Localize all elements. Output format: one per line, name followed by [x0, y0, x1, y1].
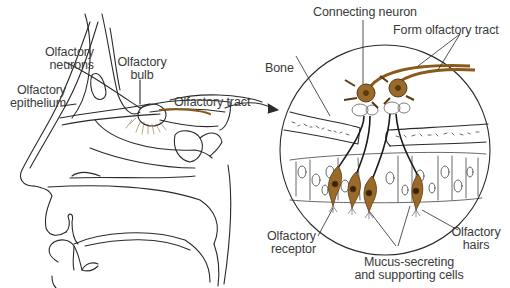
label-line: neurons: [6, 59, 94, 72]
label-form-olfactory-tract: Form olfactory tract: [393, 24, 499, 37]
label-olfactory-epithelium: Olfactory epithelium: [0, 84, 66, 110]
label-olfactory-tract: Olfactory tract: [174, 96, 250, 109]
leader-lines-right: [296, 20, 460, 246]
label-connecting-neuron: Connecting neuron: [313, 6, 417, 19]
receptor-axons: [338, 114, 418, 180]
label-line: bulb: [106, 69, 178, 82]
label-bone: Bone: [265, 62, 294, 75]
glomeruli: [352, 102, 410, 116]
olfactory-diagram: Olfactory neurons Olfactory bulb Olfacto…: [0, 0, 510, 288]
label-line: epithelium: [0, 97, 66, 110]
magnify-arrow-head: [268, 104, 278, 113]
label-olfactory-neurons: Olfactory neurons: [6, 46, 94, 72]
label-line: receptor: [254, 243, 316, 256]
label-line: and supporting cells: [348, 269, 470, 282]
supporting-cells: [290, 152, 486, 202]
label-line: hairs: [444, 239, 508, 252]
label-olfactory-receptor: Olfactory receptor: [254, 230, 316, 256]
skull-bone-section: [72, 14, 230, 162]
label-olfactory-bulb: Olfactory bulb: [106, 56, 178, 82]
label-mucus-secreting-cells: Mucus-secreting and supporting cells: [348, 256, 470, 282]
label-olfactory-hairs: Olfactory hairs: [444, 226, 508, 252]
